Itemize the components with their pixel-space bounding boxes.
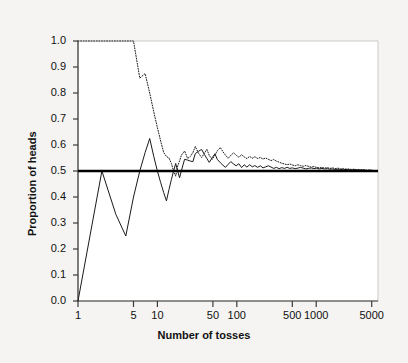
x-tick-label: 100 (217, 309, 257, 321)
x-axis-title: Number of tosses (0, 329, 408, 341)
y-tick-label: 0.3 (32, 216, 66, 228)
y-tick-label: 0.0 (32, 294, 66, 306)
figure-container: Proportion of heads Number of tosses 0.0… (0, 0, 408, 363)
x-tick-label: 10 (137, 309, 177, 321)
y-tick-label: 0.4 (32, 190, 66, 202)
y-tick-label: 0.1 (32, 268, 66, 280)
x-tick-label: 1 (58, 309, 98, 321)
y-tick-label: 0.5 (32, 164, 66, 176)
y-tick-label: 0.6 (32, 138, 66, 150)
y-tick-label: 1.0 (32, 34, 66, 46)
x-tick-label: 1000 (296, 309, 336, 321)
y-tick-label: 0.8 (32, 86, 66, 98)
y-tick-label: 0.9 (32, 60, 66, 72)
y-tick-label: 0.7 (32, 112, 66, 124)
y-tick-label: 0.2 (32, 242, 66, 254)
series-trial-1-solid (78, 139, 372, 302)
x-tick-label: 5000 (352, 309, 392, 321)
series-trial-2-dotted (78, 41, 372, 176)
